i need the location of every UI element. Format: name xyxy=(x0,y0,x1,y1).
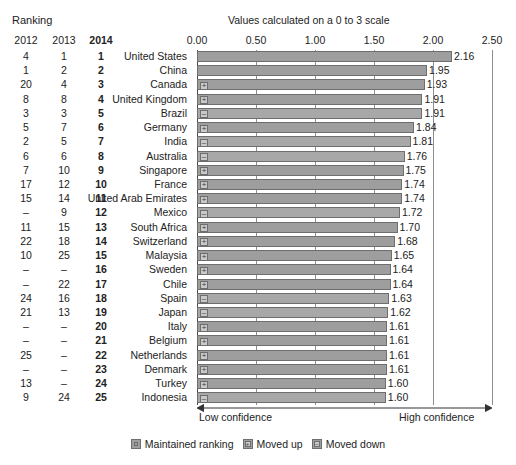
bar-wrapper: – xyxy=(197,108,422,119)
chart-row: 257India–1.81 xyxy=(0,135,516,149)
bar-wrapper xyxy=(197,51,452,62)
chart-row: 884United Kingdom+1.91 xyxy=(0,93,516,107)
bar-down: – xyxy=(197,293,389,304)
bar-value-label: 1.84 xyxy=(416,121,436,134)
bar-value-label: 1.91 xyxy=(424,107,444,120)
bar-value-label: 1.76 xyxy=(407,150,427,163)
bar-wrapper: + xyxy=(197,378,386,389)
country-label: Sweden xyxy=(0,263,192,277)
country-label: Japan xyxy=(0,306,192,320)
bar-up: + xyxy=(197,364,387,375)
bar-value-label: 1.61 xyxy=(389,334,409,347)
scale-note: Values calculated on a 0 to 3 scale xyxy=(228,14,390,26)
bar-down: – xyxy=(197,392,386,403)
chart-row: 335Brazil–1.91 xyxy=(0,107,516,121)
country-label: Indonesia xyxy=(0,391,192,405)
legend-label-maintained: Maintained ranking xyxy=(145,438,234,450)
legend-label-moved-down: Moved down xyxy=(326,438,386,450)
bar-value-label: 1.61 xyxy=(389,349,409,362)
confidence-ranking-chart: Ranking Values calculated on a 0 to 3 sc… xyxy=(0,0,516,465)
plus-icon: + xyxy=(200,352,208,360)
bar-up: + xyxy=(197,350,387,361)
x-tick-undefined: 2.50 xyxy=(472,34,512,46)
bar-down: – xyxy=(197,207,400,218)
country-label: Netherlands xyxy=(0,349,192,363)
bar-wrapper: + xyxy=(197,321,387,332)
minus-icon: – xyxy=(200,210,208,218)
bar-value-label: 1.64 xyxy=(393,263,413,276)
minus-icon: – xyxy=(314,441,320,447)
country-label: Mexico xyxy=(0,206,192,220)
bar-wrapper: + xyxy=(197,222,398,233)
bar-up: + xyxy=(197,264,391,275)
plus-icon: + xyxy=(200,238,208,246)
bar-value-label: 1.63 xyxy=(391,292,411,305)
bar-value-label: 1.60 xyxy=(388,377,408,390)
plus-icon: + xyxy=(200,338,208,346)
chart-row: 241618Spain–1.63 xyxy=(0,292,516,306)
country-label: Switzerland xyxy=(0,235,192,249)
bar-down: – xyxy=(197,108,422,119)
bar-up: + xyxy=(197,321,387,332)
bar-wrapper: + xyxy=(197,264,391,275)
plus-icon: + xyxy=(200,82,208,90)
plus-icon: + xyxy=(200,125,208,133)
country-label: Turkey xyxy=(0,377,192,391)
x-tick-undefined: 1.00 xyxy=(295,34,335,46)
bar-wrapper: + xyxy=(197,165,404,176)
bar-value-label: 1.70 xyxy=(400,221,420,234)
minus-icon: – xyxy=(200,139,208,147)
x-tick-undefined: 2.00 xyxy=(413,34,453,46)
bar-wrapper: + xyxy=(197,193,402,204)
bar-wrapper: + xyxy=(197,236,395,247)
bar-value-label: 2.16 xyxy=(454,50,474,63)
bar-wrapper: – xyxy=(197,136,411,147)
chart-row: –912Mexico–1.72 xyxy=(0,206,516,220)
bar-wrapper: – xyxy=(197,207,400,218)
bar-value-label: 1.61 xyxy=(389,363,409,376)
bar-down: – xyxy=(197,151,405,162)
bar-value-label: 1.95 xyxy=(429,64,449,77)
chart-row: 122China1.95 xyxy=(0,64,516,78)
country-label: Brazil xyxy=(0,107,192,121)
bar-wrapper: – xyxy=(197,293,389,304)
plus-icon: + xyxy=(200,253,208,261)
chart-row: 25–22Netherlands+1.61 xyxy=(0,349,516,363)
chart-row: 211319Japan–1.62 xyxy=(0,306,516,320)
x-tick-undefined: 0.50 xyxy=(236,34,276,46)
column-header-2012: 2012 xyxy=(9,34,43,46)
chart-row: 151411United Arab Emirates+1.74 xyxy=(0,192,516,206)
legend-label-moved-up: Moved up xyxy=(257,438,303,450)
bar-value-label: 1.68 xyxy=(397,235,417,248)
minus-icon: – xyxy=(200,153,208,161)
country-label: France xyxy=(0,178,192,192)
bar-value-label: 1.91 xyxy=(424,93,444,106)
bar-wrapper: + xyxy=(197,279,391,290)
bar-maintained xyxy=(197,51,452,62)
country-label: United States xyxy=(0,50,192,64)
country-label: Chile xyxy=(0,278,192,292)
chart-row: ––23Denmark+1.61 xyxy=(0,363,516,377)
bar-up: + xyxy=(197,222,398,233)
chart-row: 7109Singapore+1.75 xyxy=(0,164,516,178)
legend-item-moved-down: – Moved down xyxy=(312,438,386,450)
bar-wrapper: + xyxy=(197,122,414,133)
country-label: Singapore xyxy=(0,164,192,178)
chart-row: ––21Belgium+1.61 xyxy=(0,334,516,348)
bar-value-label: 1.81 xyxy=(413,135,433,148)
minus-icon: – xyxy=(200,395,208,403)
bar-value-label: 1.93 xyxy=(427,78,447,91)
legend-swatch-maintained-icon xyxy=(131,439,141,449)
column-header-2013: 2013 xyxy=(47,34,81,46)
bar-value-label: 1.62 xyxy=(390,306,410,319)
country-label: South Africa xyxy=(0,221,192,235)
country-label: United Kingdom xyxy=(0,93,192,107)
bar-up: + xyxy=(197,165,404,176)
bar-up: + xyxy=(197,179,402,190)
bar-wrapper: + xyxy=(197,94,422,105)
country-label: Canada xyxy=(0,78,192,92)
chart-row: 2043Canada+1.93 xyxy=(0,78,516,92)
bar-wrapper xyxy=(197,65,427,76)
plus-icon: + xyxy=(200,267,208,275)
bar-wrapper: – xyxy=(197,307,388,318)
